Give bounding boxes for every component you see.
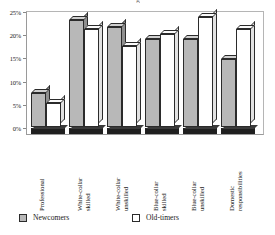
- bar-group-blue-collar-unskilled: [183, 12, 221, 134]
- y-tick-label-5: 5%: [13, 101, 21, 108]
- bar-group-professional: [31, 12, 69, 134]
- y-tick-mark-15: [23, 58, 26, 59]
- bar-group-blue-collar-skilled: [145, 12, 183, 134]
- x-label-domestic-responsibilities: Domestic responsibilities: [228, 137, 243, 211]
- bar-oldtimers-blue-collar-unskilled[interactable]: [198, 17, 213, 127]
- legend-entry-newcomers[interactable]: Newcomers: [19, 213, 69, 222]
- legend: Newcomers Old-timers: [19, 213, 259, 229]
- floor-block: [145, 128, 179, 134]
- x-label-blue-collar-unskilled: Blue-collar unskilled: [190, 137, 205, 211]
- bar-group-domestic-responsibilities: [221, 12, 259, 134]
- y-tick-label-10: 10%: [10, 78, 21, 85]
- y-tick-mark-25: [23, 12, 26, 13]
- y-axis: 25% 20% 15% 10% 5% 0%: [0, 11, 24, 135]
- x-label-blue-collar-skilled: Blue-collar skilled: [152, 137, 167, 211]
- y-tick-mark-5: [23, 105, 26, 106]
- bar-newcomers-domestic-responsibilities[interactable]: [221, 59, 236, 127]
- y-tick-mark-20: [23, 35, 26, 36]
- bar-newcomers-white-collar-skilled[interactable]: [69, 20, 84, 127]
- x-label-white-collar-skilled: White-collar skilled: [76, 137, 91, 211]
- y-tick-label-15: 15%: [10, 55, 21, 62]
- legend-entry-oldtimers[interactable]: Old-timers: [132, 213, 179, 222]
- x-axis-labels: Professional White-collar skilled White-…: [27, 137, 265, 211]
- legend-label-oldtimers: Old-timers: [146, 213, 179, 222]
- bar-oldtimers-white-collar-unskilled[interactable]: [122, 46, 137, 127]
- legend-label-newcomers: Newcomers: [33, 213, 69, 222]
- bar-oldtimers-domestic-responsibilities[interactable]: [236, 29, 251, 127]
- bar-newcomers-blue-collar-unskilled[interactable]: [183, 39, 198, 127]
- legend-swatch-oldtimers-icon: [132, 214, 140, 222]
- x-label-white-collar-unskilled: White-collar unskilled: [114, 137, 129, 211]
- bar-newcomers-white-collar-unskilled[interactable]: [107, 27, 122, 127]
- bar-oldtimers-professional[interactable]: [46, 103, 61, 127]
- y-tick-mark-10: [23, 82, 26, 83]
- plot-area: [27, 12, 263, 134]
- y-tick-mark-0: [23, 128, 26, 129]
- y-tick-label-0: 0%: [13, 125, 21, 132]
- bar-group-white-collar-skilled: [69, 12, 107, 134]
- y-tick-label-20: 20%: [10, 32, 21, 39]
- bar-newcomers-blue-collar-skilled[interactable]: [145, 39, 160, 127]
- floor-block: [69, 128, 103, 134]
- floor-block: [221, 128, 255, 134]
- clipped-title-remnant: g: [133, 0, 143, 3]
- legend-swatch-newcomers-icon: [19, 214, 27, 222]
- bar-oldtimers-blue-collar-skilled[interactable]: [160, 34, 175, 127]
- bar-chart: g 25% 20% 15% 10% 5% 0%: [0, 0, 275, 235]
- floor-block: [107, 128, 141, 134]
- x-label-professional: Professional: [38, 137, 46, 211]
- y-tick-label-25: 25%: [10, 9, 21, 16]
- floor-block: [183, 128, 217, 134]
- bar-newcomers-professional[interactable]: [31, 93, 46, 127]
- bar-group-white-collar-unskilled: [107, 12, 145, 134]
- bar-oldtimers-white-collar-skilled[interactable]: [84, 29, 99, 127]
- floor-block: [31, 128, 65, 134]
